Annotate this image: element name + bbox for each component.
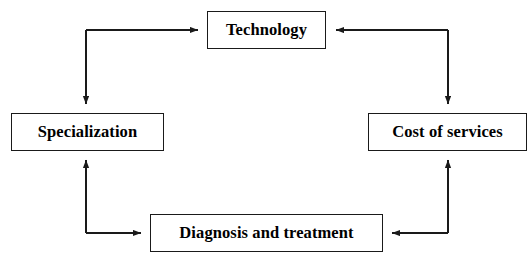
connector-specialization-to-technology (86, 30, 198, 104)
node-cost-of-services: Cost of services (368, 113, 527, 151)
node-diagnosis-and-treatment-label: Diagnosis and treatment (179, 225, 353, 242)
node-specialization: Specialization (11, 113, 164, 151)
node-diagnosis-and-treatment: Diagnosis and treatment (150, 214, 383, 252)
node-technology-label: Technology (226, 22, 307, 39)
connector-cost-of-services-to-diagnosis (392, 160, 448, 233)
node-cost-of-services-label: Cost of services (392, 124, 503, 141)
cycle-diagram-figure: Technology Specialization Cost of servic… (0, 0, 529, 266)
node-technology: Technology (207, 11, 326, 49)
node-specialization-label: Specialization (38, 124, 137, 141)
connector-technology-to-cost-of-services (336, 30, 448, 104)
connector-diagnosis-to-specialization (86, 160, 141, 233)
